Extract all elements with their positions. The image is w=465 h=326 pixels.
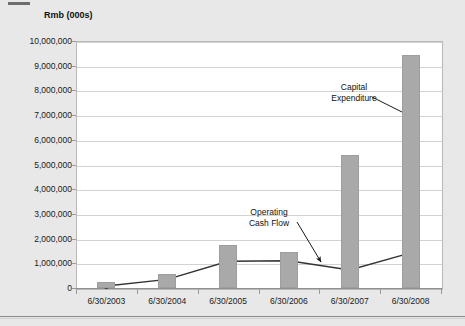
x-axis-tick-label: 6/30/2005: [209, 296, 247, 306]
y-axis-tick-mark: [72, 263, 76, 264]
x-axis-tick-mark: [380, 289, 381, 294]
y-axis-tick-mark: [72, 165, 76, 166]
x-axis-tick-mark: [259, 289, 260, 294]
x-axis-tick-mark: [76, 289, 77, 294]
y-axis-tick-mark: [72, 66, 76, 67]
annotation-operating-cash-flow: Operating Cash Flow: [236, 207, 302, 229]
bar-capital-expenditure: [219, 245, 237, 288]
x-axis-tick-mark: [198, 289, 199, 294]
annotation-capex-line2: Expenditure: [318, 93, 390, 104]
x-axis-tick-mark: [319, 289, 320, 294]
bar-capital-expenditure: [341, 155, 359, 288]
x-axis-tick-label: 6/30/2004: [148, 296, 186, 306]
x-axis-tick-mark: [441, 289, 442, 294]
x-axis-tick-label: 6/30/2006: [270, 296, 308, 306]
y-axis-tick-mark: [72, 90, 76, 91]
x-axis-tick-label: 6/30/2008: [392, 296, 430, 306]
annotation-capital-expenditure: Capital Expenditure: [318, 82, 390, 104]
annotation-ocf-line1: Operating: [236, 207, 302, 218]
page-bottom-rule: [0, 316, 465, 317]
y-axis-tick-mark: [72, 214, 76, 215]
x-axis-tick-mark: [137, 289, 138, 294]
y-axis-tick-mark: [72, 189, 76, 190]
bar-capital-expenditure: [158, 274, 176, 288]
y-axis-tick-mark: [72, 140, 76, 141]
annotation-capex-line1: Capital: [318, 82, 390, 93]
bar-capital-expenditure: [97, 282, 115, 288]
bar-capital-expenditure: [280, 252, 298, 288]
y-axis-tick-mark: [72, 41, 76, 42]
y-axis-tick-mark: [72, 239, 76, 240]
operating-cash-flow-polyline: [106, 253, 410, 286]
page-bottom-rule-shadow: [0, 318, 465, 319]
bar-capital-expenditure: [402, 55, 420, 288]
page-canvas: Rmb (000s) 10,000,0009,000,0008,000,0007…: [0, 0, 465, 326]
x-axis-tick-label: 6/30/2007: [331, 296, 369, 306]
operating-cash-flow-line: [104, 250, 413, 288]
chart-figure: Rmb (000s) 10,000,0009,000,0008,000,0007…: [0, 0, 465, 316]
annotation-ocf-line2: Cash Flow: [236, 218, 302, 229]
y-axis-tick-mark: [72, 115, 76, 116]
x-axis-tick-label: 6/30/2003: [87, 296, 125, 306]
